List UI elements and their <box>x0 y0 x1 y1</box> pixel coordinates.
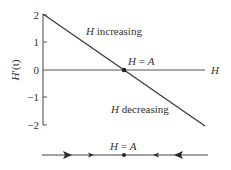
y-tick-label-minus-2: −2 <box>27 119 39 131</box>
y-axis-label: H′(t) <box>9 59 22 81</box>
y-tick-label-1: 1 <box>34 36 40 48</box>
phase-eq-val: A <box>129 140 137 152</box>
chart-svg: 2 1 0 −1 −2 H′(t) H H = A H increasing H… <box>0 0 231 170</box>
y-tick-label-2: 2 <box>34 9 40 21</box>
y-tick-label-minus-1: −1 <box>27 91 39 103</box>
annotation-h-increasing: H increasing <box>85 25 142 37</box>
decreasing-text: decreasing <box>119 103 169 115</box>
equilibrium-label: H = A <box>127 55 155 67</box>
phase-eq-sign: = <box>118 140 130 152</box>
increasing-text: increasing <box>94 25 142 37</box>
equilibrium-point <box>122 68 126 72</box>
phase-equilibrium-dot <box>122 153 126 157</box>
equilibrium-label-val: A <box>147 55 155 67</box>
phase-line: H = A <box>42 140 208 159</box>
x-axis-label: H <box>210 64 220 76</box>
annotation-h-decreasing: H decreasing <box>110 103 169 115</box>
equilibrium-label-sign: = <box>136 55 148 67</box>
y-tick-label-0: 0 <box>34 64 40 76</box>
phase-diagram-figure: 2 1 0 −1 −2 H′(t) H H = A H increasing H… <box>0 0 231 170</box>
y-axis-label-arg: (t) <box>9 59 22 70</box>
phase-equilibrium-label: H = A <box>109 140 137 152</box>
